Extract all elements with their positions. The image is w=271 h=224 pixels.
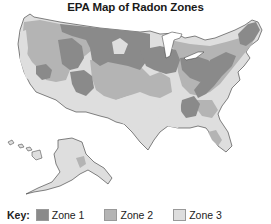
- zone1-label: Zone 1: [52, 209, 85, 221]
- hawaii-island-1: [8, 140, 14, 145]
- zone2-swatch: [104, 209, 117, 221]
- zone1-swatch: [36, 209, 49, 221]
- alaska: [26, 138, 112, 194]
- radon-zone-map: [0, 12, 271, 202]
- map-key: Key: Zone 1 Zone 2 Zone 3: [7, 208, 242, 222]
- contiguous-us: [18, 14, 262, 152]
- alaska-outline: [26, 138, 112, 194]
- hawaii-island-4: [32, 150, 42, 160]
- hawaii-island-2: [18, 144, 24, 148]
- key-item-zone3: Zone 3: [173, 209, 222, 221]
- zone3-swatch: [173, 209, 186, 221]
- hawaii-island-3: [26, 147, 32, 151]
- hawaii: [8, 140, 42, 160]
- key-item-zone2: Zone 2: [104, 209, 153, 221]
- zone3-south-plains: [96, 94, 150, 130]
- zone2-label: Zone 2: [120, 209, 153, 221]
- key-item-zone1: Zone 1: [36, 209, 85, 221]
- key-label: Key:: [7, 209, 30, 221]
- zone3-label: Zone 3: [189, 209, 222, 221]
- zone1-new-england: [238, 22, 260, 46]
